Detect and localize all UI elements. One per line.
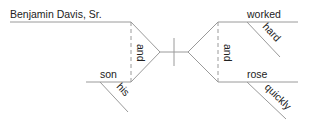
word-quickly: quickly	[263, 81, 295, 112]
sentence-diagram: Benjamin Davis, Sr. son his and and work…	[0, 0, 309, 128]
predicate-fork-upper	[188, 22, 218, 52]
word-and-subject: and	[135, 44, 147, 62]
word-worked: worked	[246, 8, 281, 20]
word-son: son	[100, 68, 117, 80]
word-benjamin-davis: Benjamin Davis, Sr.	[10, 8, 102, 20]
word-and-predicate: and	[222, 44, 234, 62]
word-rose: rose	[247, 68, 268, 80]
predicate-fork-lower	[188, 52, 218, 82]
diagram-canvas: Benjamin Davis, Sr. son his and and work…	[0, 0, 309, 128]
word-his: his	[115, 80, 133, 98]
